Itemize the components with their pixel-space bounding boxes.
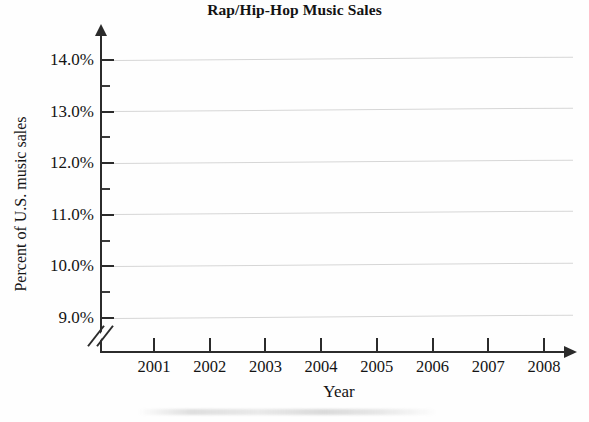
x-axis-tick — [487, 338, 489, 352]
y-axis-tick-major — [101, 162, 114, 164]
x-axis-tick-label: 2007 — [458, 357, 518, 376]
chart-figure: Rap/Hip-Hop Music Sales 14.0%13.0%12.0%1… — [0, 0, 589, 422]
y-axis-tick-major — [101, 59, 114, 61]
page-title: Rap/Hip-Hop Music Sales — [0, 1, 589, 19]
x-axis-tick-label: 2005 — [347, 357, 407, 376]
x-axis-tick-label: 2001 — [124, 357, 184, 376]
y-axis-tick-major — [101, 265, 114, 267]
x-axis-tick — [320, 338, 322, 352]
x-axis-tick — [209, 338, 211, 352]
scan-artifact-smudge — [138, 409, 438, 415]
x-axis-tick — [376, 338, 378, 352]
x-axis-tick-label: 2004 — [291, 357, 351, 376]
y-axis-tick-minor — [101, 188, 110, 190]
x-axis-tick-label: 2006 — [403, 357, 463, 376]
x-axis-tick — [543, 338, 545, 352]
y-axis-tick-minor — [101, 240, 110, 242]
y-axis-tick-major — [101, 317, 114, 319]
y-axis-tick-minor — [101, 136, 110, 138]
y-axis-tick-label: 14.0% — [8, 51, 94, 68]
x-axis-tick-label: 2003 — [235, 357, 295, 376]
x-axis-title: Year — [100, 382, 578, 402]
y-axis-tick-major — [101, 111, 114, 113]
plot-area — [102, 34, 566, 351]
y-axis-tick-major — [101, 214, 114, 216]
x-axis-tick-label: 2002 — [180, 357, 240, 376]
x-axis-tick-label: 2008 — [514, 357, 574, 376]
y-axis-title: Percent of U.S. music sales — [12, 79, 30, 329]
y-axis-arrow-icon — [95, 24, 107, 36]
y-axis-line — [100, 34, 102, 353]
x-axis-line — [100, 351, 566, 353]
x-axis-tick — [264, 338, 266, 352]
x-axis-tick — [153, 338, 155, 352]
x-axis-arrow-icon — [564, 346, 577, 358]
y-axis-tick-minor — [101, 291, 110, 293]
y-axis-tick-minor — [101, 85, 110, 87]
x-axis-tick — [432, 338, 434, 352]
